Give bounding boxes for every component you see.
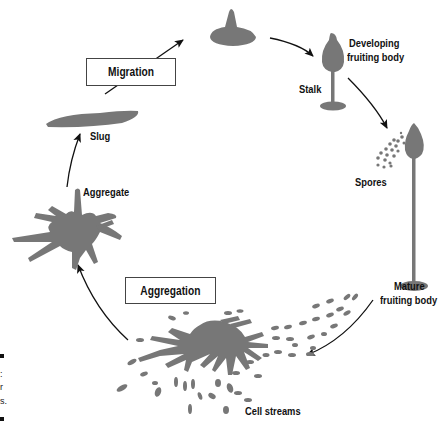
- arrow-aggregate-to-slug: [67, 134, 80, 187]
- aggregation-center-shape: [138, 316, 268, 375]
- organism-shapes: [12, 9, 428, 414]
- cone-shape: [210, 9, 256, 46]
- developing-fruiting-body-shape: [320, 33, 346, 111]
- edge-text-2: r: [0, 382, 3, 392]
- spores-label: Spores: [355, 176, 387, 189]
- mature-fruiting-body-shape: [400, 123, 428, 291]
- spores-dots: [376, 132, 409, 169]
- cell-streams-label: Cell streams: [245, 405, 301, 418]
- arrow-aggregation-to-aggregate: [78, 265, 128, 340]
- slug-shape: [46, 111, 138, 127]
- slug-label: Slug: [90, 130, 110, 143]
- migration-label: Migration: [108, 65, 154, 79]
- edge-text-3: s.: [0, 396, 7, 406]
- stalk-label: Stalk: [299, 83, 321, 96]
- arrow-cone-to-developing: [270, 38, 313, 56]
- edge-mark-top: [0, 354, 4, 358]
- aggregation-box: Aggregation: [125, 277, 216, 304]
- aggregate-shape: [12, 189, 122, 271]
- developing-label-line2: fruiting body: [347, 51, 404, 64]
- aggregate-label: Aggregate: [83, 186, 129, 199]
- developing-label-line1: Developing: [349, 37, 399, 50]
- mature-label-line1: Mature: [394, 280, 425, 293]
- arrow-developing-to-spores: [348, 78, 387, 128]
- migration-box: Migration: [86, 58, 176, 86]
- edge-mark-bottom: [0, 417, 4, 421]
- mature-label-line2: fruiting body: [380, 294, 437, 307]
- aggregation-label: Aggregation: [140, 284, 200, 298]
- edge-text-1: :: [0, 369, 3, 379]
